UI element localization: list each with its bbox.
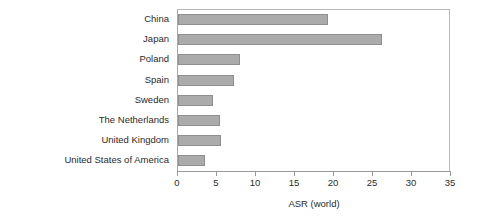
category-label: Japan: [143, 33, 169, 45]
x-tick-mark: [372, 172, 373, 176]
x-tick-label: 10: [240, 177, 270, 188]
category-label: The Netherlands: [99, 114, 169, 126]
x-axis-title: ASR (world): [177, 198, 451, 209]
bar: [178, 155, 205, 166]
x-tick-label: 20: [318, 177, 348, 188]
category-label: Spain: [145, 74, 169, 86]
bar-chart: ChinaJapanPolandSpainSwedenThe Netherlan…: [0, 0, 486, 223]
x-tick-mark: [177, 172, 178, 176]
category-label: Poland: [139, 53, 169, 65]
x-axis-line: [177, 171, 451, 172]
x-tick-label: 15: [279, 177, 309, 188]
category-label: United States of America: [64, 154, 169, 166]
bar: [178, 75, 234, 86]
bars-container: [178, 10, 450, 172]
bar: [178, 95, 213, 106]
x-tick-mark: [450, 172, 451, 176]
category-label: China: [144, 13, 169, 25]
x-tick-label: 0: [162, 177, 192, 188]
x-tick-label: 35: [435, 177, 465, 188]
x-tick-mark: [411, 172, 412, 176]
x-tick-mark: [216, 172, 217, 176]
bar: [178, 135, 221, 146]
bar: [178, 34, 382, 45]
category-axis-labels: ChinaJapanPolandSpainSwedenThe Netherlan…: [0, 9, 173, 172]
category-label: Sweden: [135, 94, 169, 106]
x-tick-mark: [333, 172, 334, 176]
category-label: United Kingdom: [101, 134, 169, 146]
x-tick-label: 30: [396, 177, 426, 188]
x-tick-label: 25: [357, 177, 387, 188]
x-tick-mark: [255, 172, 256, 176]
x-tick-mark: [294, 172, 295, 176]
bar: [178, 115, 220, 126]
x-tick-label: 5: [201, 177, 231, 188]
bar: [178, 54, 240, 65]
bar: [178, 14, 328, 25]
